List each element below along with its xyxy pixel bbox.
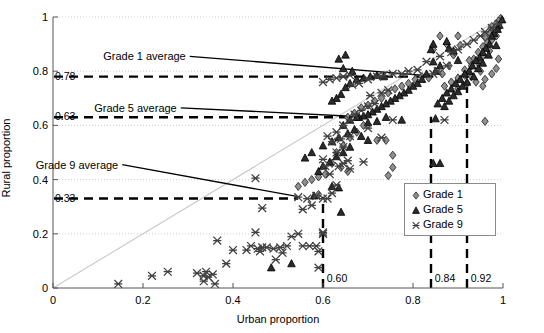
annotation-label: Grade 5 average <box>94 102 177 114</box>
vline-value-label: 0.60 <box>327 272 347 284</box>
x-tick-label: 0.6 <box>315 294 330 306</box>
legend-item-label: Grade 1 <box>423 188 463 201</box>
marker-x-cross <box>229 246 237 254</box>
marker-x-cross <box>211 280 219 288</box>
marker-triangle <box>308 149 316 156</box>
marker-x-cross <box>366 92 374 100</box>
marker-diamond <box>455 32 461 40</box>
marker-triangle <box>267 264 275 271</box>
marker-x-cross <box>440 116 448 124</box>
marker-x-cross <box>328 189 336 197</box>
legend-item[interactable]: Grade 9 <box>409 217 491 232</box>
marker-triangle <box>398 116 406 123</box>
marker-triangle <box>492 41 500 48</box>
marker-x-cross <box>294 230 302 238</box>
y-tick-label: 0.8 <box>33 65 48 77</box>
marker-x-cross <box>269 245 277 253</box>
marker-x-cross <box>272 256 280 264</box>
marker-diamond <box>495 55 501 63</box>
annotation-label: Grade 9 average <box>36 159 119 171</box>
marker-x-cross <box>213 237 221 245</box>
x-tick-label: 0.2 <box>135 294 150 306</box>
marker-x-cross <box>348 81 356 89</box>
marker-x-cross <box>164 268 172 276</box>
marker-triangle <box>337 208 345 215</box>
y-tick-label: 0 <box>42 282 48 294</box>
legend-item-label: Grade 9 <box>423 218 463 231</box>
marker-diamond <box>457 41 463 49</box>
legend-item[interactable]: Grade 5 <box>409 202 491 217</box>
marker-x-cross <box>377 134 385 142</box>
x-cross-icon <box>409 218 423 231</box>
marker-x-cross <box>413 66 421 74</box>
marker-x-cross <box>323 195 331 203</box>
marker-x-cross <box>323 132 331 140</box>
x-tick-label: 0 <box>50 294 56 306</box>
x-tick-label: 1 <box>500 294 506 306</box>
marker-x-cross <box>263 243 271 251</box>
marker-x-cross <box>332 128 340 136</box>
marker-x-cross <box>337 135 345 143</box>
x-tick-label: 0.4 <box>225 294 240 306</box>
vline-value-label: 0.92 <box>471 272 491 284</box>
marker-triangle <box>342 51 350 58</box>
marker-x-cross <box>303 195 311 203</box>
marker-x-cross <box>339 73 347 81</box>
annotation-label: Grade 1 average <box>103 50 186 62</box>
diamond-icon <box>409 188 423 201</box>
marker-triangle <box>443 37 451 44</box>
y-axis-title: Rural proportion <box>0 119 12 198</box>
legend: Grade 1 Grade 5 Grade 9 <box>404 183 496 236</box>
marker-x-cross <box>389 116 397 124</box>
marker-triangle <box>373 117 381 124</box>
marker-x-cross <box>319 78 327 86</box>
scatter-chart: 00.20.40.60.8100.20.40.60.81 0.780.630.3… <box>0 0 544 333</box>
marker-x-cross <box>463 40 471 48</box>
hline-value-label: 0.33 <box>55 192 75 204</box>
marker-x-cross <box>443 62 451 70</box>
marker-triangle <box>436 159 444 166</box>
marker-x-cross <box>422 58 430 66</box>
marker-x-cross <box>258 204 266 212</box>
marker-x-cross <box>299 206 307 214</box>
legend-item[interactable]: Grade 1 <box>409 187 491 202</box>
y-tick-label: 0.4 <box>33 174 48 186</box>
marker-diamond <box>392 85 398 93</box>
marker-triangle <box>364 136 372 143</box>
marker-diamond <box>295 182 301 190</box>
vline-value-label: 0.84 <box>435 272 455 284</box>
hline-value-label: 0.78 <box>55 70 75 82</box>
marker-diamond <box>437 32 443 40</box>
marker-x-cross <box>332 74 340 82</box>
triangle-icon <box>409 203 423 216</box>
marker-x-cross <box>470 36 478 44</box>
marker-x-cross <box>308 201 316 209</box>
marker-diamond <box>390 151 396 159</box>
leader-line <box>122 165 298 197</box>
marker-triangle <box>335 55 343 62</box>
marker-triangle <box>454 56 462 63</box>
marker-diamond <box>390 163 396 171</box>
marker-x-cross <box>436 52 444 60</box>
y-tick-label: 1 <box>42 11 48 23</box>
marker-triangle <box>288 260 296 267</box>
marker-x-cross <box>283 242 291 250</box>
x-axis-title: Urban proportion <box>237 313 320 325</box>
y-tick-label: 0.6 <box>33 119 48 131</box>
marker-x-cross <box>222 260 230 268</box>
hline-value-label: 0.63 <box>55 110 75 122</box>
marker-x-cross <box>326 170 334 178</box>
marker-x-cross <box>114 280 122 288</box>
marker-x-cross <box>314 264 322 272</box>
marker-diamond <box>489 70 495 78</box>
marker-x-cross <box>251 174 259 182</box>
marker-triangle <box>429 40 437 47</box>
marker-diamond <box>309 176 315 184</box>
marker-x-cross <box>148 272 156 280</box>
marker-triangle <box>319 142 327 149</box>
marker-triangle <box>301 154 309 161</box>
marker-triangle <box>432 115 440 122</box>
y-tick-label: 0.2 <box>33 228 48 240</box>
marker-diamond <box>385 171 391 179</box>
marker-x-cross <box>344 157 352 165</box>
